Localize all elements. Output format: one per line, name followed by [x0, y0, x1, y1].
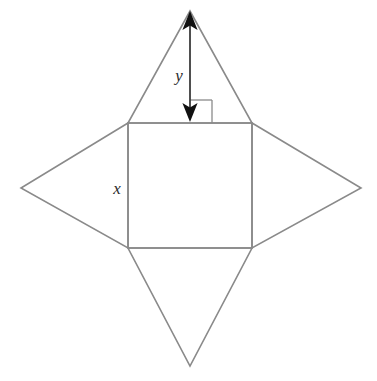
geometry-figure: y x	[0, 0, 377, 381]
figure-background	[0, 0, 377, 381]
figure-canvas: y x	[0, 0, 377, 381]
side-label-x: x	[112, 179, 121, 198]
height-label-y: y	[173, 66, 183, 85]
